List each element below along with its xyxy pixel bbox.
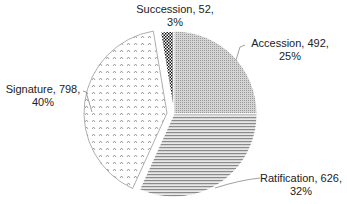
label-succession-name: Succession, 52, <box>130 3 220 16</box>
label-signature-name: Signature, 798, <box>0 83 86 96</box>
label-signature: Signature, 798, 40% <box>0 83 86 109</box>
label-accession-name: Accession, 492, <box>240 37 340 50</box>
label-succession-percent: 3% <box>130 16 220 29</box>
label-succession: Succession, 52, 3% <box>130 3 220 29</box>
label-signature-percent: 40% <box>0 96 86 109</box>
label-ratification: Ratification, 626, 32% <box>256 172 346 198</box>
label-ratification-name: Ratification, 626, <box>256 172 346 185</box>
label-accession-percent: 25% <box>240 50 340 63</box>
label-ratification-percent: 32% <box>256 185 346 198</box>
label-accession: Accession, 492, 25% <box>240 37 340 63</box>
